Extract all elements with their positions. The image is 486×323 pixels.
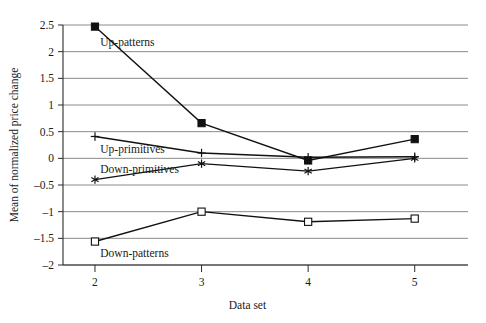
y-tick-label: 1 [48,99,54,111]
x-tick-label: 4 [305,276,311,288]
line-chart: 2.521.510.50–0.5–1–1.5–2 2345 Up-pattern… [0,0,486,323]
data-point-marker [305,218,312,225]
chart-background [0,0,486,323]
x-axis-title: Data set [229,299,267,311]
annotation-up-primitives: Up-primitives [100,143,165,156]
data-point-marker [411,136,418,143]
y-tick-label: –0.5 [33,179,54,191]
x-tick-label: 3 [199,276,205,288]
y-tick-label: –2 [42,259,55,271]
y-tick-label: 0 [48,152,54,164]
y-tick-label: 1.5 [40,72,55,84]
y-tick-label: 0.5 [40,126,55,138]
x-tick-label: 2 [92,276,98,288]
data-point-marker [91,238,98,245]
data-point-marker [411,215,418,222]
annotation-down-patterns: Down-patterns [100,247,169,260]
data-point-marker [91,23,98,30]
annotation-down-primitives: Down-primitives [100,163,179,176]
x-tick-label: 5 [412,276,418,288]
annotation-up-patterns: Up-patterns [100,36,155,49]
data-point-marker [198,208,205,215]
y-axis-title: Mean of normalized price change [8,68,21,223]
y-tick-label: 2.5 [40,19,55,31]
y-tick-label: 2 [48,46,54,58]
y-tick-label: –1 [42,206,55,218]
y-tick-label: –1.5 [33,232,54,244]
chart-container: 2.521.510.50–0.5–1–1.5–2 2345 Up-pattern… [0,0,486,323]
data-point-marker [198,120,205,127]
